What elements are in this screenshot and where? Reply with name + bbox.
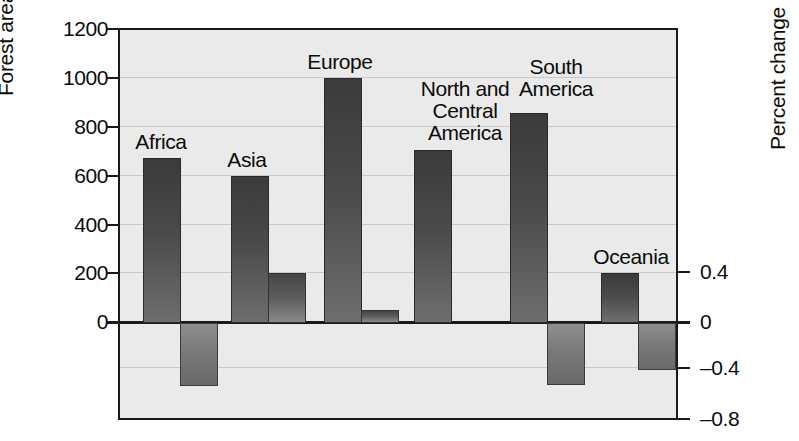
bar-forest-africa bbox=[143, 158, 181, 323]
bar-forest-south-america bbox=[510, 113, 548, 323]
gridline-600 bbox=[120, 175, 676, 176]
gridline-200 bbox=[120, 272, 676, 273]
bar-percent-south-america bbox=[547, 323, 585, 385]
left-tickmark-1200 bbox=[106, 28, 118, 30]
left-tickmark-1000 bbox=[106, 77, 118, 79]
bar-forest-oceania bbox=[601, 273, 639, 323]
bar-percent-africa bbox=[180, 323, 218, 386]
chart-figure: Forest area (1,000 ha) Percent change 12… bbox=[0, 0, 799, 441]
right-tick-label-neg0p4: –0.4 bbox=[700, 357, 739, 378]
right-axis-title: Percent change bbox=[766, 0, 790, 150]
left-tick-label-1200: 1200 bbox=[24, 18, 108, 39]
bar-forest-asia bbox=[231, 176, 269, 323]
bar-percent-europe bbox=[361, 310, 399, 323]
left-tickmark-400 bbox=[106, 224, 118, 226]
region-label-europe: Europe bbox=[272, 51, 408, 73]
bar-forest-north-and-central-america bbox=[414, 150, 452, 323]
left-axis-title: Forest area (1,000 ha) bbox=[0, 0, 18, 96]
region-label-oceania: Oceania bbox=[570, 246, 692, 268]
right-tick-label-0p4: 0.4 bbox=[700, 261, 728, 282]
right-tick-label-0: 0 bbox=[700, 311, 711, 332]
right-tickmark-0 bbox=[678, 321, 690, 324]
bar-forest-europe bbox=[324, 78, 362, 323]
left-tickmark-800 bbox=[106, 126, 118, 128]
region-label-south-america: South America bbox=[489, 56, 623, 100]
right-tick-label-neg0p8: –0.8 bbox=[700, 408, 739, 429]
right-tickmark-neg0p4 bbox=[678, 367, 690, 369]
left-tickmark-600 bbox=[106, 175, 118, 177]
left-tick-label-600: 600 bbox=[24, 165, 108, 186]
gridline-400 bbox=[120, 224, 676, 225]
bar-percent-asia bbox=[268, 273, 306, 323]
left-tick-label-800: 800 bbox=[24, 116, 108, 137]
left-tickmark-200 bbox=[106, 272, 118, 274]
region-label-asia: Asia bbox=[192, 149, 302, 171]
bar-percent-oceania bbox=[638, 323, 676, 370]
left-tick-label-0: 0 bbox=[24, 311, 108, 332]
left-tick-label-400: 400 bbox=[24, 214, 108, 235]
left-tick-label-1000: 1000 bbox=[24, 67, 108, 88]
right-tickmark-neg0p8 bbox=[678, 418, 690, 420]
left-tickmark-0 bbox=[106, 321, 118, 324]
right-tickmark-0p4 bbox=[678, 271, 690, 273]
left-tick-label-200: 200 bbox=[24, 262, 108, 283]
